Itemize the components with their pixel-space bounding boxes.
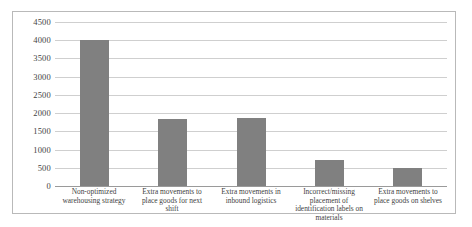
y-axis-tick-label: 3000: [11, 73, 51, 82]
bars-series: [55, 22, 447, 186]
y-axis-tick-label: 1000: [11, 146, 51, 155]
bar: [158, 119, 187, 186]
y-axis-tick-label: 500: [11, 164, 51, 173]
bar: [315, 160, 344, 186]
y-axis-tick-label: 2000: [11, 109, 51, 118]
x-axis: Non-optimized warehousing strategyExtra …: [55, 188, 447, 222]
x-axis-tick-label: Extra movements to place goods on shelve…: [371, 188, 445, 205]
x-axis-tick-label: Incorrect/missing placement of identific…: [292, 188, 366, 222]
x-axis-tick-label: Extra movements to place goods for next …: [135, 188, 209, 214]
bar: [393, 168, 422, 186]
y-axis-tick-label: 4000: [11, 36, 51, 45]
y-axis-tick-label: 1500: [11, 127, 51, 136]
y-axis-tick-label: 4500: [11, 18, 51, 27]
x-axis-tick-label: Extra movements in inbound logistics: [214, 188, 288, 205]
bar: [237, 118, 266, 186]
y-axis-tick-label: 2500: [11, 91, 51, 100]
bar: [80, 40, 109, 186]
x-axis-tick-label: Non-optimized warehousing strategy: [57, 188, 131, 205]
plot-area: [55, 22, 447, 186]
bar-chart-figure: 450040003500300025002000150010005000 Non…: [12, 11, 456, 214]
y-axis-tick-label: 0: [11, 182, 51, 191]
y-axis-tick-label: 3500: [11, 54, 51, 63]
y-axis: 450040003500300025002000150010005000: [13, 22, 51, 186]
